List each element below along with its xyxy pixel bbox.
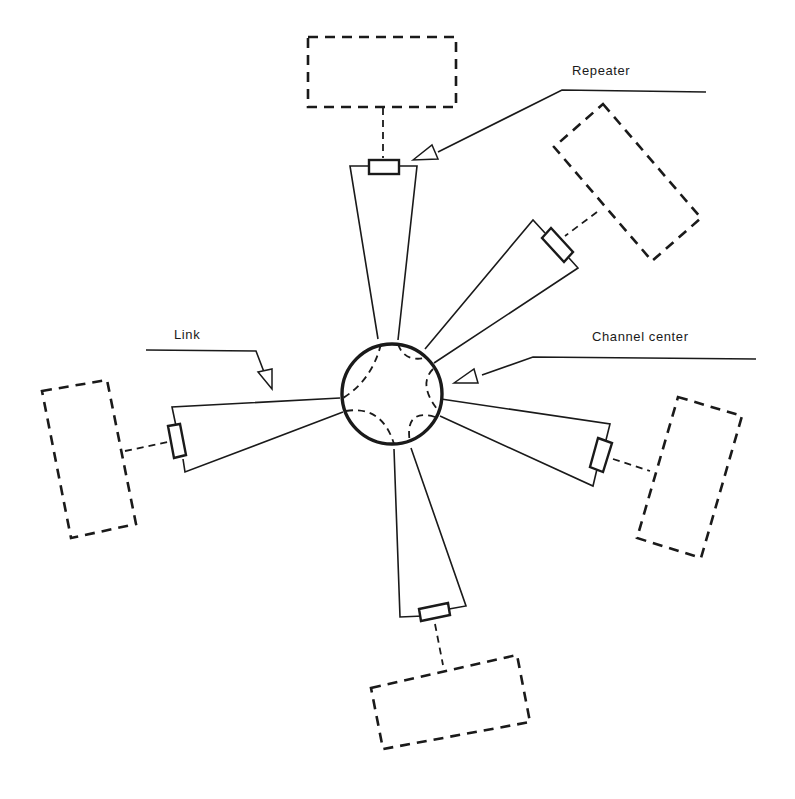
station-box-upper-right	[554, 104, 701, 261]
station-connector-left	[125, 442, 168, 451]
station-connector-right	[613, 459, 650, 471]
callout-link	[146, 350, 272, 389]
repeater-right	[590, 438, 612, 472]
label-channel-center: Channel center	[592, 329, 689, 344]
station-box-bottom	[371, 655, 530, 749]
repeater-bottom	[419, 603, 450, 621]
callout-channel-center	[454, 357, 756, 383]
repeater-left	[168, 424, 186, 458]
channel-center-hub	[342, 344, 442, 444]
link-left-2	[183, 412, 343, 472]
callout-arrow-channel-center	[454, 369, 478, 383]
station-box-left	[42, 380, 136, 538]
link-top	[350, 166, 378, 339]
network-diagram	[0, 0, 795, 799]
station-connector-upper-right	[565, 212, 597, 236]
station-box-right	[637, 397, 742, 558]
link-bottom	[394, 449, 423, 617]
station-box-top	[308, 37, 456, 107]
repeater-upper-right	[542, 228, 573, 262]
repeater-top	[369, 160, 399, 174]
link-bottom-2	[411, 448, 466, 609]
callout-arrow-repeater	[413, 145, 438, 160]
link-top-2	[398, 166, 417, 340]
branch-bottom	[371, 448, 530, 749]
branch-upper-right	[425, 104, 701, 363]
callout-arrow-link	[258, 369, 272, 389]
link-left	[172, 398, 340, 426]
link-right	[441, 399, 610, 440]
label-link: Link	[174, 327, 200, 342]
branch-right	[440, 397, 742, 558]
station-connector-bottom	[435, 624, 443, 665]
label-repeater: Repeater	[572, 63, 630, 78]
link-right-2	[440, 416, 597, 486]
branch-left	[42, 380, 343, 538]
link-upper-right-2	[434, 258, 578, 363]
branch-top	[308, 37, 456, 340]
